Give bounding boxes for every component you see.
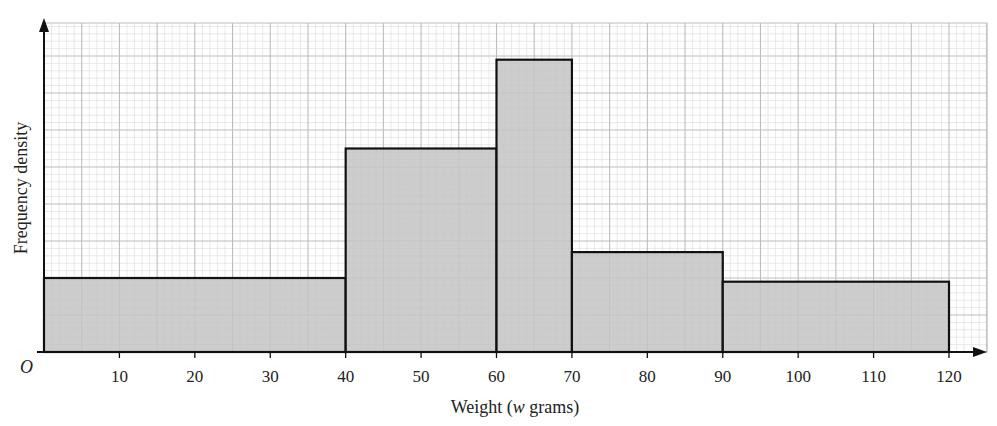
histogram-bar — [497, 60, 572, 352]
x-tick-label: 100 — [785, 367, 811, 386]
x-tick-label: 110 — [861, 367, 886, 386]
histogram-bar — [572, 252, 723, 352]
x-tick-label: 40 — [337, 367, 354, 386]
histogram-bar — [346, 149, 497, 353]
x-tick-label: 90 — [714, 367, 731, 386]
x-axis-arrow-icon — [973, 347, 987, 357]
x-tick-label: 20 — [186, 367, 203, 386]
x-tick-label: 80 — [639, 367, 656, 386]
x-axis-title: Weight (w grams) — [451, 397, 580, 418]
x-tick-label: 120 — [936, 367, 962, 386]
x-tick-label: 50 — [413, 367, 430, 386]
histogram-chart: 102030405060708090100110120 O Weight (w … — [0, 0, 997, 426]
y-axis-title: Frequency density — [11, 122, 31, 254]
x-axis-ticks: 102030405060708090100110120 — [111, 352, 962, 386]
x-tick-label: 60 — [488, 367, 505, 386]
histogram-bar — [723, 282, 949, 352]
histogram-bar — [44, 278, 346, 352]
x-tick-label: 70 — [563, 367, 580, 386]
x-tick-label: 10 — [111, 367, 128, 386]
y-axis-arrow-icon — [39, 18, 49, 32]
x-tick-label: 30 — [262, 367, 279, 386]
origin-label: O — [20, 357, 33, 377]
